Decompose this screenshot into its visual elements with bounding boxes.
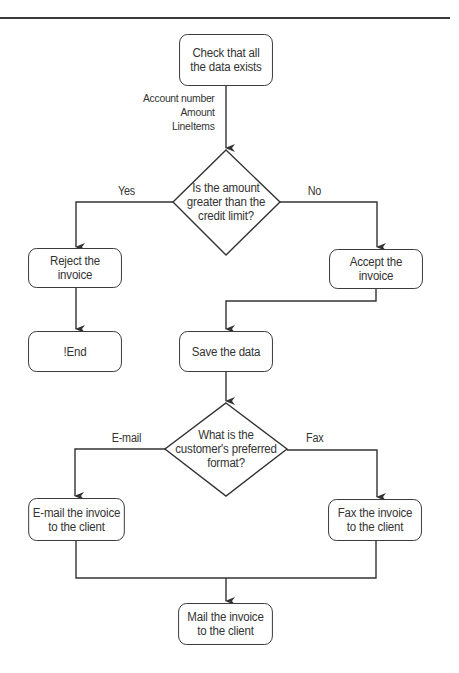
accept-label: Accept the invoice [350, 255, 403, 283]
mail-node: Mail the invoice to the client [178, 603, 273, 645]
reject-label: Reject the invoice [50, 254, 100, 282]
reject-node: Reject the invoice [28, 248, 122, 288]
save-label: Save the data [192, 345, 261, 359]
email-label: E-mail the invoice to the client [33, 506, 120, 534]
end-label: !End [64, 345, 87, 359]
data-item: Amount [143, 105, 215, 119]
fax-label: Fax the invoice to the client [338, 506, 413, 534]
email-node: E-mail the invoice to the client [28, 498, 125, 541]
format-decision-label: What is the customer's preferred format? [171, 428, 281, 470]
accept-node: Accept the invoice [329, 249, 423, 289]
mail-label: Mail the invoice to the client [187, 610, 263, 638]
save-node: Save the data [179, 331, 273, 372]
email-edge-label: E-mail [112, 431, 142, 445]
fax-edge-label: Fax [306, 431, 323, 445]
end-node: !End [28, 331, 122, 372]
yes-edge-label: Yes [118, 184, 135, 198]
data-item: LineItems [143, 119, 215, 133]
check-data-node: Check that all the data exists [179, 34, 273, 86]
data-items-list: Account number Amount LineItems [143, 91, 215, 133]
data-item: Account number [143, 91, 215, 105]
credit-decision-label: Is the amount greater than the credit li… [180, 181, 272, 223]
fax-node: Fax the invoice to the client [328, 499, 422, 541]
no-edge-label: No [308, 184, 321, 198]
check-data-label: Check that all the data exists [190, 46, 261, 74]
